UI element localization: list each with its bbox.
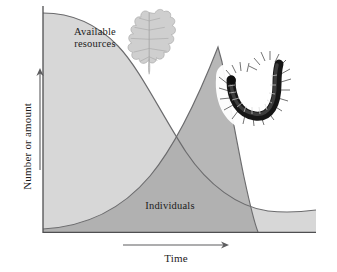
- figure-container: Availableresources Individuals Time Numb…: [0, 0, 337, 272]
- x-axis-arrow: [123, 241, 229, 248]
- annotation-individuals: Individuals: [124, 200, 216, 212]
- population-resource-area-chart: [0, 0, 337, 272]
- annotation-available-resources-line1: Available: [74, 26, 116, 37]
- caterpillar-head: [227, 76, 236, 85]
- y-axis-label: Number or amount: [21, 81, 34, 211]
- annotation-available-resources: Availableresources: [52, 26, 138, 50]
- annotation-available-resources-line2: resources: [74, 38, 115, 49]
- x-axis-label: Time: [146, 252, 206, 265]
